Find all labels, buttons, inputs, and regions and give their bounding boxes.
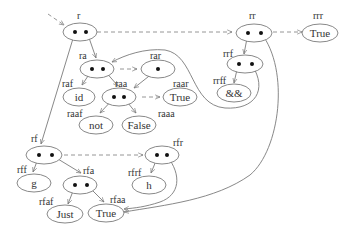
- value-raf: id: [75, 91, 84, 103]
- label-rfaa: rfaa: [110, 194, 126, 205]
- node-rrf: rrf: [223, 48, 263, 73]
- label-r: r: [77, 10, 81, 21]
- node-rr: rr: [236, 10, 272, 42]
- label-rrr: rrr: [313, 10, 324, 21]
- label-raa: raa: [115, 78, 128, 89]
- label-rfa: rfa: [83, 165, 95, 176]
- value-rfaf: Just: [56, 208, 73, 220]
- value-rrff: &&: [225, 87, 243, 99]
- value-raar: True: [170, 91, 190, 103]
- label-raaf: raaf: [67, 108, 83, 119]
- node-raf: id raf: [62, 78, 95, 106]
- node-rar: rar: [141, 50, 175, 78]
- label-raar: raar: [173, 78, 189, 89]
- entry-arrow: [48, 14, 64, 25]
- value-raaa: False: [127, 119, 150, 131]
- value-raaf: not: [89, 119, 103, 131]
- node-raaf: not raaf: [67, 108, 113, 134]
- node-rfa: rfa: [63, 165, 97, 194]
- node-raaa: False raaa: [122, 108, 175, 134]
- value-rrr: True: [310, 27, 330, 39]
- label-rar: rar: [150, 50, 162, 61]
- label-rrf: rrf: [223, 48, 234, 59]
- value-rfaa: True: [96, 207, 116, 219]
- label-ra: ra: [79, 50, 87, 61]
- label-rfrf: rfrf: [128, 167, 142, 178]
- node-rf: rf: [26, 133, 62, 164]
- node-rfr: rfr: [145, 137, 184, 164]
- node-raar: True raar: [163, 78, 197, 106]
- node-rfaa: True rfaa: [88, 194, 126, 222]
- label-rfr: rfr: [173, 137, 184, 148]
- label-raaa: raaa: [158, 108, 175, 119]
- label-rff: rff: [17, 164, 27, 175]
- node-rfrf: h rfrf: [128, 167, 166, 194]
- node-rrr: True rrr: [302, 10, 338, 42]
- term-graph-diagram: r ra rar id raf raa True raar not raaf F…: [0, 0, 352, 235]
- label-rrff: rrff: [213, 75, 227, 86]
- label-rf: rf: [31, 133, 38, 144]
- label-rfaf: rfaf: [39, 196, 54, 207]
- label-rr: rr: [249, 10, 256, 21]
- node-rrff: && rrff: [213, 75, 251, 102]
- value-rfrf: h: [146, 179, 152, 191]
- node-raa: raa: [102, 78, 136, 106]
- label-raf: raf: [62, 78, 74, 89]
- node-rfaf: Just rfaf: [39, 196, 83, 223]
- node-ra: ra: [79, 50, 114, 78]
- value-rff: g: [31, 177, 37, 189]
- node-r: r: [63, 10, 97, 41]
